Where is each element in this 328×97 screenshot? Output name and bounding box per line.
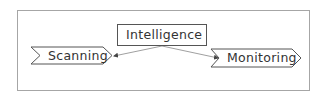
connector-intelligence-scanning: [114, 46, 162, 56]
intelligence-label: Intelligence: [126, 27, 202, 42]
connector-intelligence-monitoring: [162, 46, 218, 58]
monitoring-label: Monitoring: [227, 50, 297, 65]
scanning-label: Scanning: [48, 48, 108, 63]
